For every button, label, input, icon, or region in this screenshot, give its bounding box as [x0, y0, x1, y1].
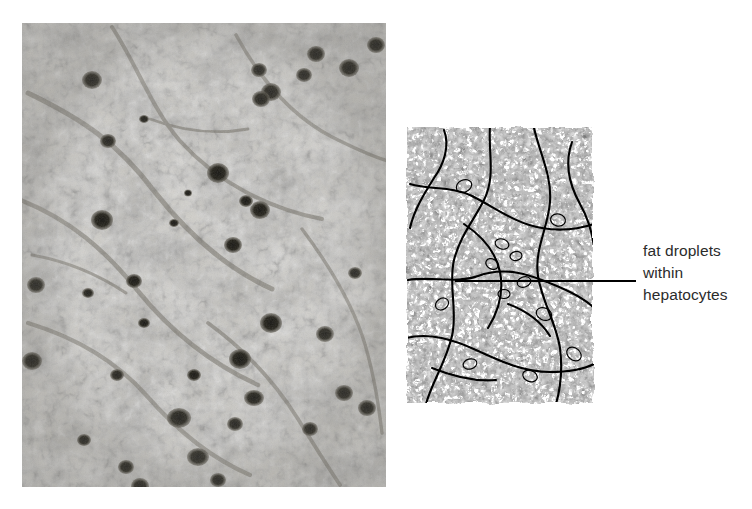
label-line-3: hepatocytes [643, 284, 752, 306]
photomicrograph-panel [22, 23, 386, 487]
label-line-1: fat droplets [643, 240, 752, 262]
figure-root: fat droplets within hepatocytes [0, 0, 752, 509]
line-drawing-image [404, 124, 596, 406]
leader-line [455, 280, 636, 282]
photomicrograph-image [22, 23, 386, 487]
line-drawing-panel [404, 124, 596, 406]
label-line-2: within [643, 262, 752, 284]
annotation-label: fat droplets within hepatocytes [643, 240, 752, 306]
